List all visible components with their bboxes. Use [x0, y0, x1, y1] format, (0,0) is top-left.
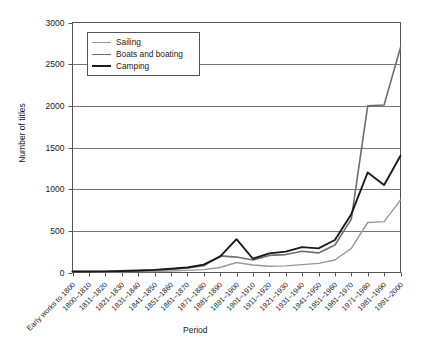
- legend-label-sailing: Sailing: [116, 37, 141, 47]
- y-axis-tick-label: 500: [25, 226, 65, 236]
- series-line-camping: [73, 156, 401, 272]
- legend-item-boats-and-boating: Boats and boating: [92, 48, 195, 60]
- chart-legend: Sailing Boats and boating Camping: [87, 32, 200, 76]
- gridlines-group: [73, 65, 401, 232]
- legend-swatch-sailing: [92, 42, 111, 43]
- y-axis-tick-label: 1500: [25, 143, 65, 153]
- y-axis-tick-label: 0: [25, 268, 65, 278]
- y-axis-tick-label: 2000: [25, 101, 65, 111]
- x-axis-ticks-group: [74, 273, 402, 277]
- chart-figure: Number of titles Period 0500100015002000…: [0, 0, 423, 347]
- legend-item-sailing: Sailing: [92, 36, 195, 48]
- legend-item-camping: Camping: [92, 60, 195, 72]
- legend-label-camping: Camping: [116, 61, 149, 71]
- series-line-sailing: [73, 200, 401, 272]
- y-axis-ticks-group: [69, 24, 73, 274]
- y-axis-tick-label: 1000: [25, 184, 65, 194]
- y-axis-title: Number of titles: [17, 83, 27, 183]
- legend-label-boats-and-boating: Boats and boating: [116, 49, 183, 59]
- data-series-group: [73, 48, 401, 273]
- y-axis-tick-label: 2500: [25, 59, 65, 69]
- series-line-boats-and-boating: [73, 48, 401, 272]
- legend-swatch-camping: [92, 65, 111, 67]
- y-axis-tick-label: 3000: [25, 18, 65, 28]
- legend-swatch-boats-and-boating: [92, 54, 111, 55]
